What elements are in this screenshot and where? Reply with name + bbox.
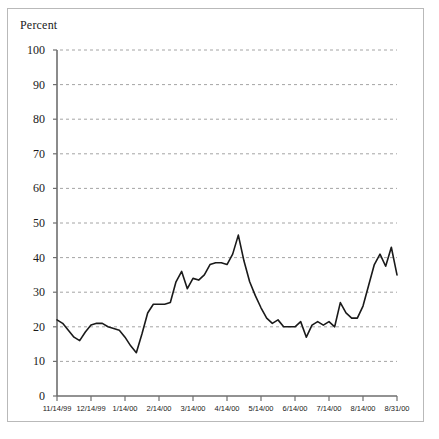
x-tick-label: 4/14/00 xyxy=(214,404,239,413)
x-tick-label: 11/14/99 xyxy=(43,404,72,413)
x-tick-label: 8/14/00 xyxy=(350,404,375,413)
x-tick-label: 1/14/00 xyxy=(112,404,137,413)
y-tick-label: 0 xyxy=(13,389,45,404)
x-tick-label: 8/31/00 xyxy=(384,404,409,413)
y-tick-label: 40 xyxy=(13,250,45,265)
gridlines-group xyxy=(60,50,397,361)
x-tick-label: 6/14/00 xyxy=(282,404,307,413)
x-tick-label: 3/14/00 xyxy=(180,404,205,413)
chart-plot-area xyxy=(0,0,439,439)
y-tick-label: 70 xyxy=(13,146,45,161)
y-tick-label: 90 xyxy=(13,77,45,92)
y-tick-label: 20 xyxy=(13,319,45,334)
x-tick-label: 12/14/99 xyxy=(76,404,105,413)
y-tick-label: 60 xyxy=(13,181,45,196)
y-tick-label: 80 xyxy=(13,112,45,127)
x-tick-label: 7/14/00 xyxy=(316,404,341,413)
x-tick-label: 2/14/00 xyxy=(146,404,171,413)
y-tick-label: 100 xyxy=(13,43,45,58)
y-tick-label: 30 xyxy=(13,285,45,300)
chart-page: Percent 0102030405060708090100 11/14/991… xyxy=(0,0,439,439)
y-tick-label: 10 xyxy=(13,354,45,369)
data-series-line xyxy=(57,235,397,353)
y-tick-label: 50 xyxy=(13,216,45,231)
x-tick-label: 5/14/00 xyxy=(248,404,273,413)
